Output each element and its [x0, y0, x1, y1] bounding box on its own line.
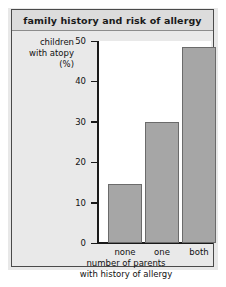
chart-body: children with atopy (%) 01020304050 none…	[12, 31, 213, 266]
figure-frame: family history and risk of allergy child…	[11, 9, 214, 267]
y-axis-tick-label: 30	[62, 117, 86, 127]
bar	[145, 122, 179, 243]
y-axis-tick	[91, 81, 97, 83]
x-axis-category-label: both	[182, 247, 216, 257]
figure-panel: family history and risk of allergy child…	[0, 0, 226, 287]
bars-layer	[99, 41, 213, 243]
y-axis-tick	[91, 202, 97, 204]
y-axis-tick-label: 40	[62, 76, 86, 86]
y-axis-tick	[91, 243, 97, 245]
y-axis-tick-label: 10	[62, 198, 86, 208]
y-axis-tick-label: 20	[62, 157, 86, 167]
y-axis-title-line-3: (%)	[12, 59, 74, 70]
y-axis-tick	[91, 162, 97, 164]
x-axis-category-label: none	[108, 247, 142, 257]
x-axis-title: number of parents with history of allerg…	[42, 258, 210, 280]
x-axis-title-line-1: number of parents	[42, 258, 210, 269]
chart-title-band: family history and risk of allergy	[12, 10, 213, 31]
x-axis-category-label: one	[145, 247, 179, 257]
y-axis-tick	[91, 121, 97, 123]
bar	[182, 47, 216, 243]
y-axis-tick	[91, 41, 97, 43]
y-axis-tick-label: 0	[62, 238, 86, 248]
x-axis-title-line-2: with history of allergy	[42, 269, 210, 280]
chart-title: family history and risk of allergy	[23, 15, 201, 26]
bar	[108, 184, 142, 243]
y-axis-title-line-2: with atopy	[12, 48, 74, 59]
y-axis-tick-label: 50	[62, 36, 86, 46]
